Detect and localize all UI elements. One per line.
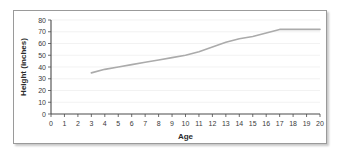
chart-figure: 0102030405060708001234567891011121314151…	[0, 0, 341, 161]
x-tick-label: 18	[289, 120, 297, 127]
x-tick-label: 4	[103, 120, 107, 127]
x-tick-label: 6	[130, 120, 134, 127]
chart-frame: 0102030405060708001234567891011121314151…	[13, 10, 327, 144]
x-tick-label: 3	[89, 120, 93, 127]
y-tick-label: 0	[42, 111, 46, 118]
x-tick-label: 17	[276, 120, 284, 127]
x-tick-label: 9	[170, 120, 174, 127]
x-tick-label: 10	[182, 120, 190, 127]
x-tick-label: 16	[262, 120, 270, 127]
x-tick-label: 19	[303, 120, 311, 127]
y-tick-label: 60	[38, 40, 46, 47]
x-tick-label: 15	[249, 120, 257, 127]
y-axis-title: Height (inches)	[19, 38, 28, 96]
x-tick-label: 13	[222, 120, 230, 127]
y-tick-label: 20	[38, 87, 46, 94]
y-tick-label: 50	[38, 52, 46, 59]
x-tick-label: 14	[235, 120, 243, 127]
y-tick-label: 10	[38, 99, 46, 106]
x-tick-label: 8	[157, 120, 161, 127]
y-axis-ticks: 01020304050607080	[38, 17, 51, 118]
y-tick-label: 40	[38, 64, 46, 71]
x-tick-label: 1	[62, 120, 66, 127]
gridlines	[51, 20, 320, 102]
x-tick-label: 5	[116, 120, 120, 127]
x-tick-label: 20	[316, 120, 324, 127]
data-series-height	[91, 29, 320, 72]
y-tick-label: 70	[38, 28, 46, 35]
y-tick-label: 30	[38, 75, 46, 82]
x-tick-label: 2	[76, 120, 80, 127]
line-chart: 0102030405060708001234567891011121314151…	[14, 11, 326, 143]
x-tick-label: 7	[143, 120, 147, 127]
x-tick-label: 11	[195, 120, 202, 127]
x-axis-title: Age	[178, 132, 194, 141]
y-tick-label: 80	[38, 17, 46, 24]
x-axis-ticks: 01234567891011121314151617181920	[49, 114, 324, 127]
x-tick-label: 0	[49, 120, 53, 127]
x-tick-label: 12	[209, 120, 217, 127]
